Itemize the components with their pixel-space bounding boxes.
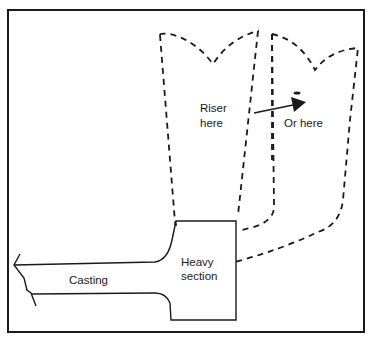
ink-mark	[294, 91, 301, 94]
heavy-section-label-line1: Heavy	[181, 256, 214, 268]
riser-label-line2: here	[200, 117, 223, 129]
arrow-head-icon	[291, 97, 306, 112]
casting-broken-end	[14, 254, 36, 306]
alt-riser-label: Or here	[284, 117, 323, 129]
diagram-canvas: Riser here Or here Heavy section Casting	[0, 0, 370, 351]
frame-border	[8, 10, 364, 332]
heavy-section-label-line2: section	[181, 270, 217, 282]
casting-label: Casting	[69, 274, 108, 286]
riser-label-line1: Riser	[200, 102, 227, 114]
